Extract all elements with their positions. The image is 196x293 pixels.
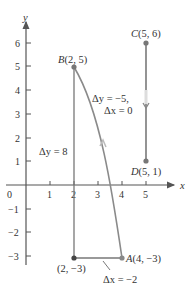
y-tick-label-neg2: −2 bbox=[8, 227, 19, 238]
x-axis-label: x bbox=[179, 180, 185, 191]
y-tick-label-neg3: −3 bbox=[8, 251, 19, 262]
coordinate-diagram: x y 0 1 2 3 4 5 1 2 3 4 bbox=[0, 0, 196, 293]
point-corner bbox=[71, 255, 76, 260]
delta-x-leader-line bbox=[103, 261, 110, 270]
y-tick-label-6: 6 bbox=[15, 38, 20, 49]
x-tick-label-1: 1 bbox=[47, 189, 52, 200]
axes: x y 0 1 2 3 4 5 1 2 3 4 bbox=[6, 12, 185, 265]
delta-x-ab-label: Δx = −2 bbox=[103, 274, 137, 285]
point-d bbox=[143, 158, 148, 163]
corner-point-label: (2, −3) bbox=[57, 263, 86, 275]
origin-label: 0 bbox=[7, 189, 12, 200]
point-d-label: D(5, 1) bbox=[130, 166, 162, 178]
x-tick-label-3: 3 bbox=[95, 189, 100, 200]
point-a bbox=[119, 255, 124, 260]
point-a-label: A(4, −3) bbox=[125, 253, 162, 265]
y-axis-label: y bbox=[22, 12, 28, 23]
y-tick-label-neg1: −1 bbox=[8, 204, 19, 215]
point-b bbox=[71, 64, 76, 69]
delta-x-cd-label: Δx = 0 bbox=[104, 105, 132, 116]
point-c bbox=[143, 40, 148, 45]
y-tick-label-2: 2 bbox=[15, 133, 20, 144]
y-tick-label-5: 5 bbox=[15, 61, 20, 72]
arrow-highlight bbox=[145, 90, 148, 104]
point-b-label: B(2, 5) bbox=[58, 54, 88, 66]
delta-y-ab-label: Δy = 8 bbox=[39, 146, 67, 157]
y-tick-label-4: 4 bbox=[15, 85, 20, 96]
point-c-label: C(5, 6) bbox=[131, 28, 161, 40]
x-tick-label-5: 5 bbox=[143, 189, 148, 200]
y-tick-label-3: 3 bbox=[15, 109, 20, 120]
y-tick-label-1: 1 bbox=[15, 156, 20, 167]
delta-y-cd-label: Δy = −5, bbox=[92, 93, 129, 104]
x-tick-label-4: 4 bbox=[119, 189, 124, 200]
y-ticks bbox=[26, 43, 31, 256]
